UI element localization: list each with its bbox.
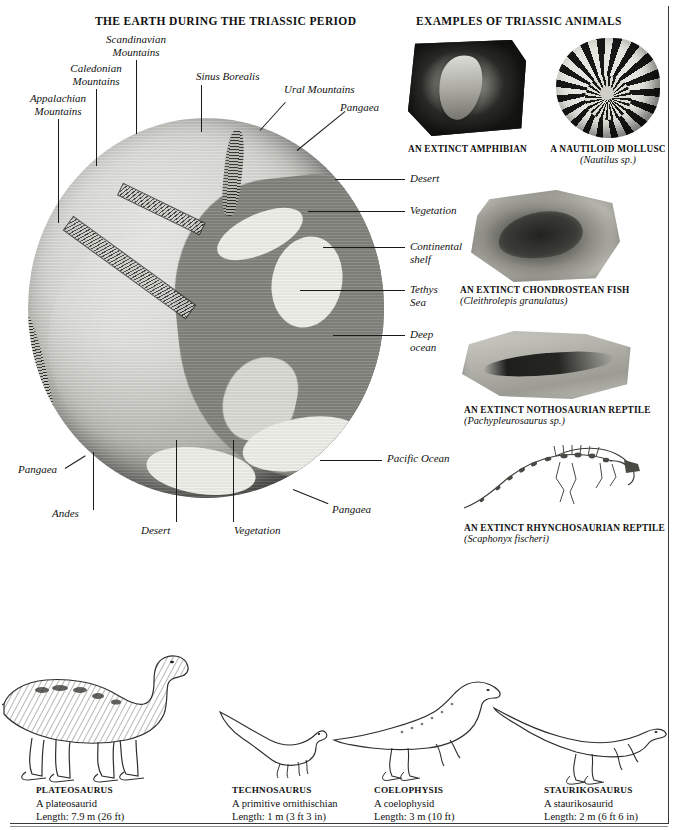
dinosaur-name-coelophysis: COELOPHYSIS <box>374 784 454 797</box>
plateosaurus-icon <box>2 648 242 784</box>
coelophysis-icon <box>332 668 508 784</box>
label-continental-shelf: Continental shelf <box>410 240 462 265</box>
dinosaur-name-technosaurus: TECHNOSAURUS <box>232 784 338 797</box>
label-pacific-ocean: Pacific Ocean <box>387 452 450 465</box>
leader-deep-ocean <box>333 335 405 336</box>
fossil-image-nautiloid <box>556 38 660 138</box>
fossil-image-chondrostean-fish <box>468 190 620 282</box>
dinosaur-group-staurikosaurus: A staurikosaurid <box>544 797 638 810</box>
dinosaur-illustration-plateosaurus <box>2 648 242 788</box>
page-border-bottom <box>10 823 668 824</box>
leader-appalachian-mountains <box>58 119 59 223</box>
label-desert-bottom: Desert <box>141 524 170 537</box>
label-vegetation-right: Vegetation <box>410 204 456 217</box>
fossil-caption-chondrostean-fish-species: (Cleithrolepis granulatus) <box>460 295 666 306</box>
page-border-bottom-secondary <box>10 826 668 827</box>
triassic-period-plate: THE EARTH DURING THE TRIASSIC PERIOD EXA… <box>0 0 683 830</box>
label-vegetation-bottom: Vegetation <box>234 524 280 537</box>
dinosaur-name-staurikosaurus: STAURIKOSAURUS <box>544 784 638 797</box>
page-title-animals: EXAMPLES OF TRIASSIC ANIMALS <box>416 15 622 27</box>
fossil-caption-rhynchosaurian-reptile-species: (Scaphonyx fischeri) <box>464 533 676 544</box>
fossil-caption-amphibian: AN EXTINCT AMPHIBIAN <box>408 144 526 154</box>
fossil-image-amphibian <box>408 40 526 136</box>
label-appalachian-mountains: Appalachian Mountains <box>10 92 106 117</box>
label-sinus-borealis: Sinus Borealis <box>196 70 259 83</box>
leader-andes <box>93 452 94 510</box>
page-title-earth: THE EARTH DURING THE TRIASSIC PERIOD <box>95 15 356 27</box>
technosaurus-icon <box>218 706 330 780</box>
rhynchosaur-skeleton-icon <box>460 430 646 514</box>
fossil-caption-nautiloid: A NAUTILOID MOLLUSC (Nautilus sp.) <box>540 144 676 165</box>
leader-vegetation-right <box>308 211 405 212</box>
label-pangaea-top: Pangaea <box>340 101 379 114</box>
leader-desert-right <box>335 179 405 180</box>
label-desert-right: Desert <box>410 172 439 185</box>
leader-tethys-sea <box>300 290 405 291</box>
fossil-caption-nothosaurian-reptile-species: (Pachypleurosaurus sp.) <box>464 415 674 426</box>
label-deep-ocean: Deep ocean <box>410 328 436 353</box>
label-ural-mountains: Ural Mountains <box>284 83 355 96</box>
staurikosaurus-icon <box>492 690 668 786</box>
globe-sphere <box>28 118 384 498</box>
dinosaur-illustration-coelophysis <box>332 668 508 788</box>
label-tethys-sea: Tethys Sea <box>410 283 438 308</box>
fossil-caption-nothosaurian-reptile: AN EXTINCT NOTHOSAURIAN REPTILE (Pachypl… <box>464 405 674 426</box>
fossil-caption-chondrostean-fish-name: AN EXTINCT CHONDROSTEAN FISH <box>460 285 629 295</box>
label-andes: Andes <box>52 507 79 520</box>
leader-desert-bottom <box>176 440 177 522</box>
fossil-caption-nothosaurian-reptile-name: AN EXTINCT NOTHOSAURIAN REPTILE <box>464 405 651 415</box>
caledonian-mountains-shape <box>117 183 206 236</box>
leader-sinus-borealis <box>201 85 202 132</box>
dinosaur-illustration-technosaurus <box>218 706 330 784</box>
dinosaur-caption-coelophysis: COELOPHYSIS A coelophysid Length: 3 m (1… <box>374 784 454 823</box>
fossil-image-nothosaurian-reptile <box>462 328 634 402</box>
dinosaur-illustration-staurikosaurus <box>492 690 668 790</box>
label-scandinavian-mountains: Scandinavian Mountains <box>86 33 186 58</box>
fossil-caption-amphibian-name: AN EXTINCT AMPHIBIAN <box>408 144 527 154</box>
label-caledonian-mountains: Caledonian Mountains <box>48 62 144 87</box>
fossil-caption-rhynchosaurian-reptile: AN EXTINCT RHYNCHOSAURIAN REPTILE (Scaph… <box>464 523 676 544</box>
leader-pacific-ocean <box>320 460 382 461</box>
dinosaur-length-plateosaurus: Length: 7.9 m (26 ft) <box>36 810 124 823</box>
fossil-image-rhynchosaurian-reptile <box>460 430 646 514</box>
dinosaur-length-staurikosaurus: Length: 2 m (6 ft 6 in) <box>544 810 638 823</box>
label-pangaea-left: Pangaea <box>18 463 57 476</box>
dinosaur-group-technosaurus: A primitive ornithischian <box>232 797 338 810</box>
dinosaur-length-coelophysis: Length: 3 m (10 ft) <box>374 810 454 823</box>
label-pangaea-right: Pangaea <box>332 503 371 516</box>
dinosaur-caption-staurikosaurus: STAURIKOSAURUS A staurikosaurid Length: … <box>544 784 638 823</box>
dinosaur-caption-plateosaurus: PLATEOSAURUS A plateosaurid Length: 7.9 … <box>36 784 124 823</box>
fossil-caption-nautiloid-species: (Nautilus sp.) <box>540 154 676 165</box>
dinosaur-caption-technosaurus: TECHNOSAURUS A primitive ornithischian L… <box>232 784 338 823</box>
dinosaur-group-coelophysis: A coelophysid <box>374 797 454 810</box>
leader-continental-shelf <box>323 247 405 248</box>
fossil-caption-rhynchosaurian-reptile-name: AN EXTINCT RHYNCHOSAURIAN REPTILE <box>464 523 665 533</box>
fossil-caption-nautiloid-name: A NAUTILOID MOLLUSC <box>550 144 665 154</box>
leader-vegetation-bottom <box>233 440 234 522</box>
dinosaur-group-plateosaurus: A plateosaurid <box>36 797 124 810</box>
fossil-caption-chondrostean-fish: AN EXTINCT CHONDROSTEAN FISH (Cleithrole… <box>460 285 666 306</box>
dinosaur-name-plateosaurus: PLATEOSAURUS <box>36 784 124 797</box>
dinosaur-length-technosaurus: Length: 1 m (3 ft 3 in) <box>232 810 338 823</box>
